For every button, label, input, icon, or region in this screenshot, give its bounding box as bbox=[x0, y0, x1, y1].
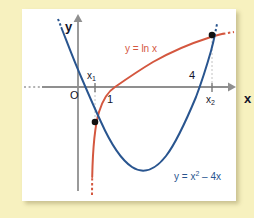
figure-panel: y x O x1 x2 1 4 y = ln x y = x2 – 4x bbox=[22, 9, 236, 201]
log-curve-dotted-right bbox=[223, 32, 234, 34]
x-axis-arrowhead bbox=[228, 83, 236, 92]
equation-label-log-curve: y = ln x bbox=[125, 44, 157, 54]
x-tick-label-1: 1 bbox=[107, 94, 113, 105]
x2-label: x2 bbox=[206, 95, 215, 105]
x2-label-subscript: 2 bbox=[211, 99, 215, 106]
parabola-equation-prefix: y = x bbox=[174, 171, 195, 182]
origin-label: O bbox=[70, 90, 79, 101]
parabola-equation-suffix: – 4x bbox=[199, 171, 221, 182]
figure-page: { "figure": { "kind": "math-graph", "bac… bbox=[0, 0, 254, 218]
log-curve bbox=[92, 34, 223, 177]
parabola-dotted-left-top bbox=[58, 19, 62, 28]
parabola-equation-exponent: 2 bbox=[195, 170, 199, 177]
equation-label-parabola: y = x2 – 4x bbox=[174, 172, 221, 182]
intersection-point-x1 bbox=[92, 119, 99, 126]
y-axis-label: y bbox=[65, 20, 72, 33]
x-tick-label-4: 4 bbox=[189, 70, 195, 81]
x-axis-label: x bbox=[244, 92, 251, 105]
y-axis-arrowhead bbox=[74, 14, 83, 22]
x1-label: x1 bbox=[87, 71, 96, 81]
intersection-point-x2 bbox=[209, 32, 216, 39]
x1-label-subscript: 1 bbox=[92, 75, 96, 82]
